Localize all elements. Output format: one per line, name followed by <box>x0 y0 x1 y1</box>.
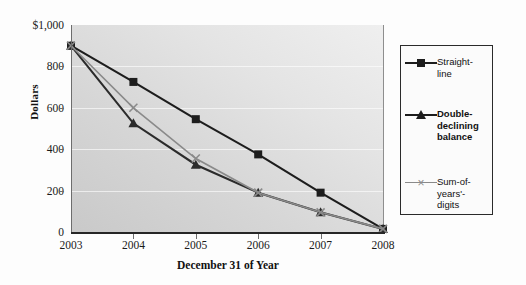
y-axis-line <box>71 25 72 233</box>
y-tick-label: 200 <box>14 185 64 197</box>
x-tick-label: 2008 <box>360 239 406 251</box>
x-tick-mark <box>133 234 134 239</box>
data-point <box>254 150 262 158</box>
chart-figure: Dollars $1,0008006004002000 200320042005… <box>0 0 526 285</box>
x-axis-line <box>71 232 385 234</box>
data-point <box>192 115 200 123</box>
legend-entry-3[interactable]: ×Sum-of-years'-digits <box>405 176 471 211</box>
plot-area <box>71 25 384 232</box>
y-tick-label: 0 <box>14 226 64 238</box>
y-tick-label: 600 <box>14 102 64 114</box>
legend-entry-1[interactable]: Straight-line <box>405 56 473 79</box>
x-tick-mark <box>321 234 322 239</box>
y-tick-label: 800 <box>14 60 64 72</box>
y-tick-mark <box>59 149 64 150</box>
data-point <box>129 104 137 112</box>
series-layer <box>71 25 384 232</box>
legend-label: Sum-of-years'-digits <box>437 176 471 211</box>
x-tick-label: 2007 <box>298 239 344 251</box>
y-tick-mark <box>59 108 64 109</box>
legend-marker-triangle-icon <box>405 109 437 121</box>
legend-entry-2[interactable]: Double-decliningbalance <box>405 108 479 143</box>
y-tick-mark <box>59 191 64 192</box>
series-line <box>71 46 383 229</box>
data-point <box>317 189 325 197</box>
series-1 <box>67 42 387 233</box>
x-tick-label: 2003 <box>48 239 94 251</box>
x-tick-mark <box>258 234 259 239</box>
chart-legend: Straight-lineDouble-decliningbalance×Sum… <box>400 45 493 215</box>
y-tick-label: 400 <box>14 143 64 155</box>
x-tick-label: 2006 <box>235 239 281 251</box>
data-point <box>129 78 137 86</box>
legend-label: Straight-line <box>437 56 473 79</box>
legend-label: Double-decliningbalance <box>437 108 479 143</box>
y-tick-label: $1,000 <box>14 19 64 31</box>
legend-marker-x-icon: × <box>405 177 437 189</box>
y-tick-mark <box>59 66 64 67</box>
x-tick-label: 2004 <box>110 239 156 251</box>
x-tick-mark <box>196 234 197 239</box>
legend-marker-square-icon <box>405 57 437 69</box>
x-tick-label: 2005 <box>173 239 219 251</box>
x-axis-title: December 31 of Year <box>71 259 385 271</box>
